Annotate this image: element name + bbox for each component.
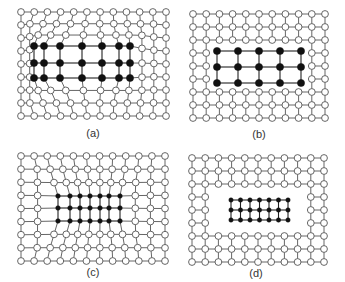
mesh-node <box>229 115 236 122</box>
mesh-node <box>150 73 157 80</box>
mesh-node <box>241 233 248 240</box>
refined-node <box>257 198 261 202</box>
mesh-node <box>190 89 197 96</box>
mesh-node <box>67 100 74 107</box>
mesh-node <box>255 259 262 266</box>
mesh-node <box>34 205 41 212</box>
mesh-node <box>18 22 25 29</box>
panel-label-d: (d) <box>249 267 262 279</box>
mesh-node <box>308 115 315 122</box>
mesh-node <box>215 259 222 266</box>
mesh-node <box>202 194 209 201</box>
mesh-node <box>96 100 103 107</box>
mesh-node <box>307 168 314 175</box>
mesh-node <box>216 37 223 44</box>
mesh-node <box>256 37 263 44</box>
mesh-node <box>322 115 329 122</box>
mesh-node <box>110 9 117 16</box>
mesh-node <box>203 89 210 96</box>
mesh-node <box>136 9 143 16</box>
mesh-node <box>268 155 275 162</box>
mesh-node <box>96 166 103 173</box>
mesh-node <box>147 192 154 199</box>
mesh-node <box>281 155 288 162</box>
mesh-node <box>216 89 223 96</box>
mesh-node <box>295 24 302 31</box>
mesh-node <box>203 63 210 70</box>
mesh-node <box>62 32 69 39</box>
mesh-node <box>255 246 262 253</box>
mesh-node <box>307 194 314 201</box>
mesh-node <box>321 181 328 188</box>
mesh-node <box>18 231 25 238</box>
mesh-node <box>96 179 103 186</box>
mesh-node <box>53 100 60 107</box>
mesh-node <box>282 115 289 122</box>
mesh-node <box>47 166 54 173</box>
mesh-node <box>72 244 79 251</box>
mesh-node <box>202 220 209 227</box>
mesh-node <box>308 76 315 83</box>
mesh-node <box>40 100 47 107</box>
refined-node <box>276 47 283 54</box>
mesh-node <box>139 74 146 81</box>
mesh-node <box>281 168 288 175</box>
mesh-node <box>281 259 288 266</box>
mesh-node <box>113 87 120 94</box>
mesh-node <box>242 115 249 122</box>
mesh-node <box>228 259 235 266</box>
mesh-node <box>96 20 103 27</box>
mesh-node <box>321 194 328 201</box>
mesh-node <box>163 9 170 16</box>
mesh-node <box>147 179 154 186</box>
refined-node <box>56 206 61 211</box>
refined-node <box>78 194 83 199</box>
mesh-node <box>321 259 328 266</box>
mesh-node <box>137 20 144 27</box>
mesh-node <box>228 168 235 175</box>
mesh-node <box>119 179 126 186</box>
mesh-node <box>136 113 143 120</box>
refined-node <box>88 219 93 224</box>
mesh-node <box>307 220 314 227</box>
mesh-node <box>149 258 156 265</box>
mesh-node <box>26 100 33 107</box>
mesh-node <box>269 11 276 18</box>
mesh-node <box>322 76 329 83</box>
refined-node <box>213 47 220 54</box>
mesh-node <box>97 32 104 39</box>
mesh-node <box>255 181 262 188</box>
mesh-node <box>281 181 288 188</box>
mesh-node <box>216 11 223 18</box>
panel-d-mesh-with-fine-inset <box>189 155 328 266</box>
mesh-node <box>282 37 289 44</box>
mesh-node <box>203 37 210 44</box>
refined-node <box>297 63 304 70</box>
mesh-node <box>190 11 197 18</box>
mesh-node <box>215 155 222 162</box>
mesh-node <box>162 258 169 265</box>
refined-node <box>56 219 61 224</box>
mesh-node <box>150 34 157 41</box>
mesh-node <box>256 24 263 31</box>
mesh-node <box>59 166 66 173</box>
mesh-node <box>163 113 170 120</box>
mesh-node <box>63 179 70 186</box>
mesh-node <box>134 244 141 251</box>
mesh-node <box>109 153 116 160</box>
refined-node <box>30 59 37 66</box>
refined-node <box>40 59 47 66</box>
refined-node <box>115 42 122 49</box>
refined-node <box>56 194 61 199</box>
mesh-node <box>202 181 209 188</box>
refined-node <box>276 63 283 70</box>
refined-node <box>126 59 133 66</box>
mesh-node <box>189 168 196 175</box>
mesh-node <box>162 153 169 160</box>
mesh-refinement-figure: (a) (b) (c) (d) <box>0 0 345 282</box>
mesh-node <box>268 168 275 175</box>
mesh-node <box>242 37 249 44</box>
mesh-node <box>295 115 302 122</box>
mesh-node <box>268 181 275 188</box>
mesh-node <box>308 89 315 96</box>
